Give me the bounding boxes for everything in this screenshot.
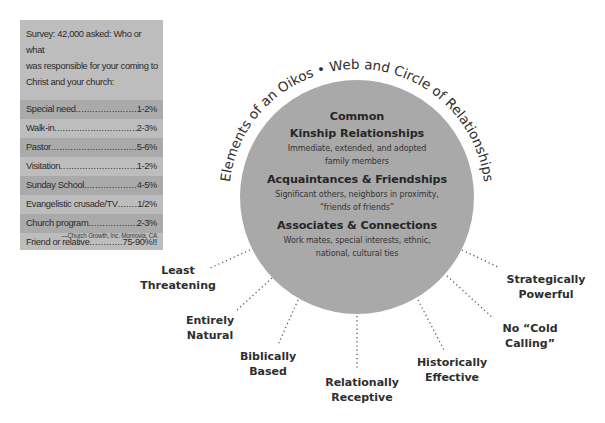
kinship-section: Common Kinship Relationships Immediate, … <box>240 108 474 168</box>
kinship-desc-line1: Immediate, extended, and adopted <box>240 142 474 155</box>
label-line: Based <box>240 364 296 379</box>
associates-heading: Associates & Connections <box>240 217 474 234</box>
associates-desc-line2: national, cultural ties <box>240 247 474 260</box>
label-line: Threatening <box>140 278 216 293</box>
acquaintances-desc-line2: “friends of friends” <box>240 201 474 214</box>
spoke-line-no-cold-calling <box>447 276 493 318</box>
associates-desc-line1: Work mates, special interests, ethnic, <box>240 234 474 247</box>
label-line: Least <box>140 263 216 278</box>
acquaintances-section: Acquaintances & Friendships Significant … <box>240 171 474 214</box>
label-line: Relationally <box>325 375 399 390</box>
label-line: Historically <box>417 355 487 370</box>
spoke-line-biblically-based <box>278 300 298 345</box>
label-line: Biblically <box>240 349 296 364</box>
spoke-line-historically-effective <box>418 300 444 350</box>
associates-section: Associates & Connections Work mates, spe… <box>240 217 474 260</box>
spoke-line-entirely-natural <box>237 278 272 310</box>
label-biblically-based: Biblically Based <box>240 349 296 379</box>
acquaintances-desc-line1: Significant others, neighbors in proximi… <box>240 188 474 201</box>
label-relationally-receptive: Relationally Receptive <box>325 375 399 405</box>
label-line: Powerful <box>506 287 585 302</box>
acquaintances-heading: Acquaintances & Friendships <box>240 171 474 188</box>
label-line: Receptive <box>325 390 399 405</box>
label-no-cold-calling: No “Cold Calling” <box>502 321 557 351</box>
label-line: Calling” <box>502 336 557 351</box>
label-strategically-powerful: Strategically Powerful <box>506 272 585 302</box>
label-line: Strategically <box>506 272 585 287</box>
label-line: Entirely <box>186 313 234 328</box>
kinship-heading-line2: Kinship Relationships <box>240 125 474 142</box>
label-line: No “Cold <box>502 321 557 336</box>
kinship-heading-line1: Common <box>240 108 474 125</box>
kinship-desc-line2: family members <box>240 155 474 168</box>
label-historically-effective: Historically Effective <box>417 355 487 385</box>
label-least-threatening: Least Threatening <box>140 263 216 293</box>
label-line: Natural <box>186 328 234 343</box>
label-line: Effective <box>417 370 487 385</box>
label-entirely-natural: Entirely Natural <box>186 313 234 343</box>
